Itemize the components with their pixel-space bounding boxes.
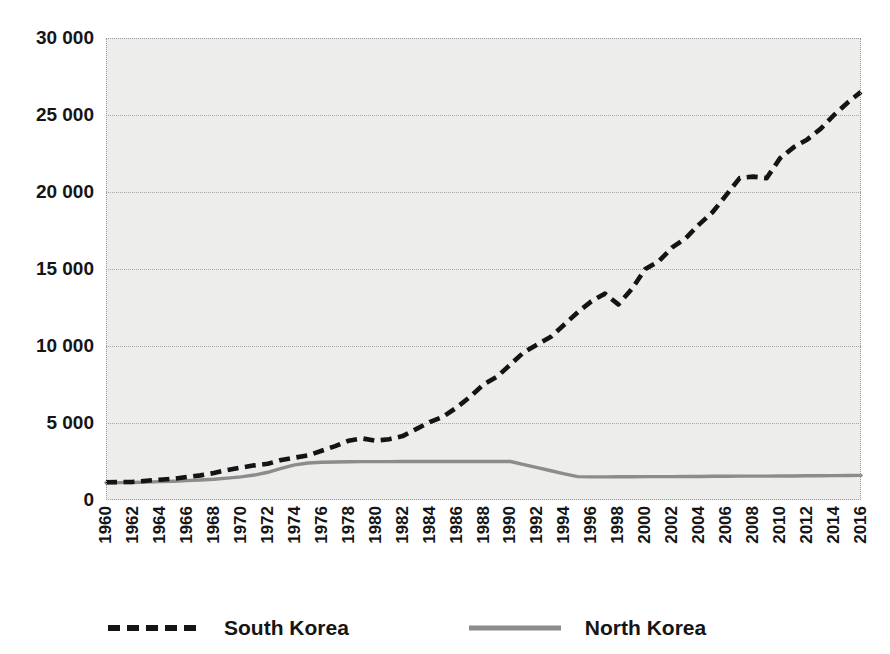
x-tick-label-1980: 1980 xyxy=(366,506,386,544)
chart-legend: South Korea North Korea xyxy=(106,608,861,648)
legend-label-north-korea: North Korea xyxy=(585,616,706,640)
series-line-south-korea xyxy=(106,92,861,482)
x-tick-label-2012: 2012 xyxy=(797,506,817,544)
y-tick-label-5000: 5 000 xyxy=(0,412,94,434)
y-tick-label-20000: 20 000 xyxy=(0,181,94,203)
x-tick-label-1990: 1990 xyxy=(500,506,520,544)
plot-area xyxy=(106,38,861,500)
x-tick-label-1962: 1962 xyxy=(123,506,143,544)
x-tick-label-1988: 1988 xyxy=(474,506,494,544)
x-tick-label-1976: 1976 xyxy=(312,506,332,544)
legend-item-north-korea: North Korea xyxy=(467,616,706,640)
x-tick-label-1974: 1974 xyxy=(285,506,305,544)
x-tick-label-2002: 2002 xyxy=(662,506,682,544)
x-tick-label-1978: 1978 xyxy=(339,506,359,544)
series-canvas xyxy=(106,38,861,500)
x-tick-label-2014: 2014 xyxy=(824,506,844,544)
y-tick-label-25000: 25 000 xyxy=(0,104,94,126)
x-tick-label-1984: 1984 xyxy=(420,506,440,544)
x-tick-label-2000: 2000 xyxy=(635,506,655,544)
x-tick-label-2016: 2016 xyxy=(851,506,871,544)
x-tick-label-1996: 1996 xyxy=(581,506,601,544)
y-tick-label-0: 0 xyxy=(0,489,94,511)
legend-swatch-solid-icon xyxy=(467,621,563,635)
x-tick-label-2004: 2004 xyxy=(689,506,709,544)
legend-swatch-dashed-icon xyxy=(106,621,202,635)
legend-item-south-korea: South Korea xyxy=(106,616,349,640)
x-tick-label-1964: 1964 xyxy=(150,506,170,544)
line-chart-figure: uth Korea ompared in 05 00010 00015 0002… xyxy=(0,0,890,654)
y-tick-label-30000: 30 000 xyxy=(0,27,94,49)
x-axis-tick-labels: 1960196219641966196819701972197419761978… xyxy=(106,506,861,602)
x-tick-label-1968: 1968 xyxy=(204,506,224,544)
x-tick-label-1972: 1972 xyxy=(258,506,278,544)
x-tick-label-1998: 1998 xyxy=(608,506,628,544)
legend-label-south-korea: South Korea xyxy=(224,616,349,640)
x-tick-label-1966: 1966 xyxy=(177,506,197,544)
y-tick-label-10000: 10 000 xyxy=(0,335,94,357)
x-tick-label-1994: 1994 xyxy=(554,506,574,544)
x-tick-label-2006: 2006 xyxy=(716,506,736,544)
x-tick-label-1986: 1986 xyxy=(447,506,467,544)
x-tick-label-1970: 1970 xyxy=(231,506,251,544)
x-tick-label-1960: 1960 xyxy=(96,506,116,544)
x-tick-label-2008: 2008 xyxy=(743,506,763,544)
x-tick-label-1982: 1982 xyxy=(393,506,413,544)
y-tick-label-15000: 15 000 xyxy=(0,258,94,280)
x-tick-label-1992: 1992 xyxy=(527,506,547,544)
x-tick-label-2010: 2010 xyxy=(770,506,790,544)
